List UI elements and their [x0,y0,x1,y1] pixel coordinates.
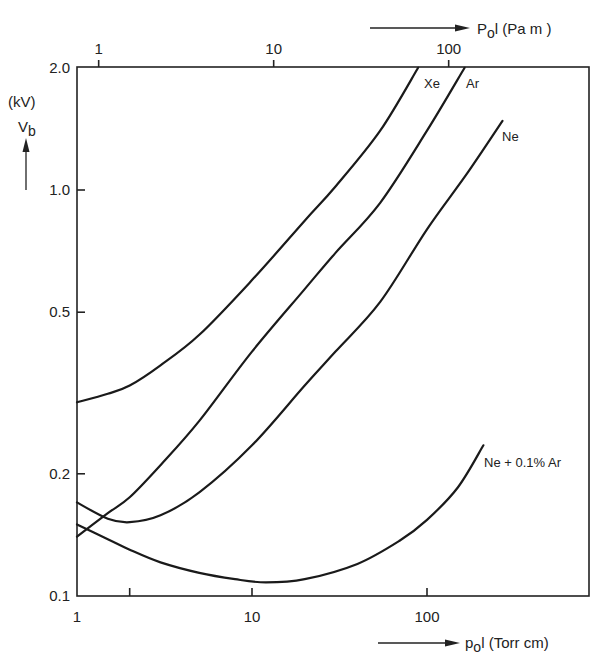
curve-label-ar: Ar [466,76,480,91]
curve-label-ne: Ne [502,129,519,144]
top-x-tick-label: 1 [95,40,103,57]
top-x-axis-arrow [370,25,470,32]
bottom-x-axis-arrow [378,640,460,647]
y-tick-label: 1.0 [49,181,70,198]
y-axis-unit: (kV) [8,93,36,110]
y-axis-ticks: 0.10.20.51.02.0 [49,59,85,604]
curve-xe [77,68,418,403]
curve-label-ne-0-1-ar: Ne + 0.1% Ar [484,455,562,470]
top-x-tick-label: 100 [436,40,461,57]
curve-ne [77,121,503,522]
curve-ar [77,68,465,537]
top-x-axis-label: Pol (Pa m ) [477,20,551,41]
top-x-tick-label: 10 [265,40,282,57]
bottom-x-axis-label: pol (Torr cm) [465,634,549,655]
breakdown-voltage-chart: 0.10.20.51.02.0 110100 110100 XeArNeNe +… [0,0,604,661]
y-tick-label: 0.1 [49,587,70,604]
x-axis-ticks: 110100 [73,588,440,625]
curve-ne-0-1-ar [77,445,483,582]
x-tick-label: 10 [244,608,261,625]
y-axis-arrow [23,138,30,190]
plot-frame [77,67,589,596]
y-tick-label: 2.0 [49,59,70,76]
curve-label-xe: Xe [424,76,440,91]
top-x-axis-ticks: 110100 [95,40,462,67]
y-tick-label: 0.2 [49,465,70,482]
y-axis-symbol: Vb [18,118,36,139]
curves [77,68,503,583]
y-tick-label: 0.5 [49,303,70,320]
x-tick-label: 1 [73,608,81,625]
x-tick-label: 100 [414,608,439,625]
